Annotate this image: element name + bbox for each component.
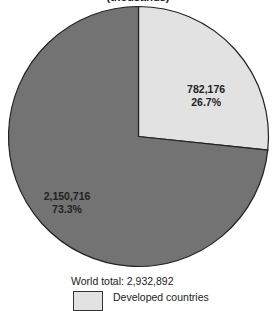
legend-label-developed: Developed countries: [113, 291, 209, 303]
slice-percent-label: 26.7%: [191, 96, 221, 108]
pie-slice-developed-countries: [139, 7, 269, 151]
legend-swatch-developed: [73, 291, 103, 311]
world-total-label: World total: 2,932,892: [71, 275, 174, 287]
slice-value-label: 782,176: [187, 83, 225, 95]
slice-value-label: 2,150,716: [44, 190, 91, 202]
slice-percent-label: 73.3%: [52, 203, 82, 215]
legend: Developed countries: [73, 291, 209, 311]
